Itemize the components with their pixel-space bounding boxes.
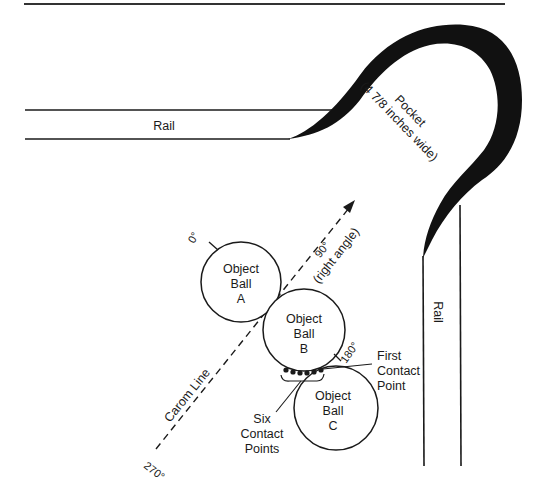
top-rail-label: Rail [153, 119, 175, 133]
top-rail: Rail [25, 110, 338, 139]
svg-text:B: B [300, 342, 308, 356]
object-ball-c: Object Ball C [294, 366, 378, 450]
angle-270-label: 270° [142, 459, 167, 482]
svg-text:Ball: Ball [231, 277, 252, 291]
six-contact-label: Six Contact Points [240, 412, 284, 456]
angle-0-label: 0° [185, 230, 201, 245]
pocket-shape [288, 25, 522, 258]
svg-text:First: First [377, 349, 402, 363]
right-rail-label: Rail [431, 301, 445, 323]
svg-text:Contact: Contact [377, 364, 421, 378]
svg-text:Ball: Ball [294, 327, 315, 341]
svg-text:Object: Object [286, 312, 323, 326]
svg-text:Object: Object [223, 262, 260, 276]
svg-text:Point: Point [377, 379, 406, 393]
svg-text:(4 7/8 inches wide): (4 7/8 inches wide) [358, 79, 441, 164]
svg-text:Contact: Contact [240, 427, 284, 441]
object-ball-b: Object Ball B [263, 289, 345, 371]
zero-degree-tick [209, 242, 218, 250]
carom-diagram: Rail Pocket (4 7/8 inches wide) Rail Car… [0, 0, 535, 497]
svg-text:Ball: Ball [323, 404, 344, 418]
svg-text:Points: Points [245, 442, 280, 456]
svg-text:Object: Object [315, 389, 352, 403]
svg-text:C: C [328, 419, 337, 433]
first-contact-label: First Contact Point [377, 349, 421, 393]
carom-line-label: Carom Line [161, 366, 213, 425]
svg-text:A: A [237, 292, 246, 306]
arrow-head-icon [343, 200, 355, 213]
svg-text:Six: Six [253, 412, 271, 426]
angle-90-label: 90° (right angle) [299, 216, 362, 286]
pocket-label: Pocket (4 7/8 inches wide) [358, 68, 452, 164]
